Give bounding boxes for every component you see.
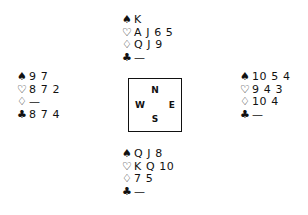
west-clubs-cards: 8 7 4 [29,109,60,122]
compass-east-label: E [169,101,175,110]
compass-south-label: S [152,115,158,124]
spade-icon: ♠ [122,14,134,27]
east-spades-row: ♠ 10 5 4 [240,71,291,84]
south-clubs-cards: — [134,186,145,199]
diamond-icon: ♢ [17,96,29,109]
spade-icon: ♠ [17,71,29,84]
club-icon: ♣ [240,109,252,122]
club-icon: ♣ [17,109,29,122]
east-diamonds-row: ♢ 10 4 [240,96,291,109]
hand-west: ♠ 9 7 ♡ 8 7 2 ♢ — ♣ 8 7 4 [17,71,60,121]
east-clubs-row: ♣ — [240,109,291,122]
west-clubs-row: ♣ 8 7 4 [17,109,60,122]
hand-south: ♠ Q J 8 ♡ K Q 10 ♢ 7 5 ♣ — [122,148,174,198]
north-clubs-row: ♣ — [122,52,173,65]
west-spades-cards: 9 7 [29,71,48,84]
west-diamonds-row: ♢ — [17,96,60,109]
south-spades-row: ♠ Q J 8 [122,148,174,161]
bridge-deal-diagram: ♠ K ♡ A J 6 5 ♢ Q J 9 ♣ — ♠ 9 7 ♡ 8 7 2 … [0,0,308,215]
south-diamonds-cards: 7 5 [134,173,153,186]
compass-west-label: W [135,101,145,110]
north-clubs-cards: — [134,52,145,65]
north-diamonds-cards: Q J 9 [134,39,163,52]
south-spades-cards: Q J 8 [134,148,163,161]
north-diamonds-row: ♢ Q J 9 [122,39,173,52]
east-clubs-cards: — [252,109,263,122]
spade-icon: ♠ [122,148,134,161]
diamond-icon: ♢ [122,173,134,186]
south-clubs-row: ♣ — [122,186,174,199]
club-icon: ♣ [122,186,134,199]
compass-north-label: N [151,86,159,95]
diamond-icon: ♢ [240,96,252,109]
compass-box: N W E S [128,78,182,132]
west-diamonds-cards: — [29,96,40,109]
west-spades-row: ♠ 9 7 [17,71,60,84]
club-icon: ♣ [122,52,134,65]
spade-icon: ♠ [240,71,252,84]
east-diamonds-cards: 10 4 [252,96,279,109]
south-diamonds-row: ♢ 7 5 [122,173,174,186]
diamond-icon: ♢ [122,39,134,52]
north-spades-cards: K [134,14,142,27]
hand-north: ♠ K ♡ A J 6 5 ♢ Q J 9 ♣ — [122,14,173,64]
north-spades-row: ♠ K [122,14,173,27]
hand-east: ♠ 10 5 4 ♡ 9 4 3 ♢ 10 4 ♣ — [240,71,291,121]
east-spades-cards: 10 5 4 [252,71,291,84]
